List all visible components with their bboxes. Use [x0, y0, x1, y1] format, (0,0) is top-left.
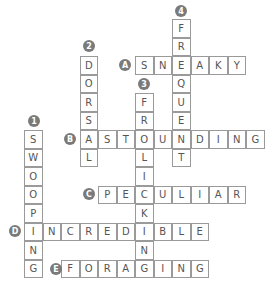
crossword-cell[interactable]: T — [172, 149, 191, 168]
crossword-cell[interactable]: R — [135, 112, 154, 131]
crossword-cell[interactable]: N — [24, 241, 43, 260]
crossword-cell[interactable]: G — [246, 130, 265, 149]
crossword-cell[interactable]: N — [154, 56, 173, 75]
crossword-cell[interactable]: C — [61, 223, 80, 242]
crossword-cell[interactable]: E — [98, 223, 117, 242]
clue-number-badge-down-4: 4 — [175, 5, 187, 17]
crossword-cell[interactable]: D — [117, 223, 136, 242]
crossword-cell[interactable]: G — [191, 260, 210, 279]
crossword-cell[interactable]: F — [61, 260, 80, 279]
crossword-cell[interactable]: L — [135, 149, 154, 168]
crossword-cell[interactable]: U — [154, 130, 173, 149]
crossword-cell[interactable]: O — [135, 130, 154, 149]
clue-number-badge-across-d: D — [9, 225, 21, 237]
crossword-cell[interactable]: P — [98, 186, 117, 205]
crossword-cell[interactable]: R — [172, 38, 191, 57]
crossword-cell[interactable]: F — [172, 19, 191, 38]
clue-number-badge-down-2: 2 — [83, 40, 95, 52]
crossword-cell[interactable]: K — [135, 204, 154, 223]
crossword-cell[interactable]: Y — [228, 56, 247, 75]
crossword-cell[interactable]: I — [209, 130, 228, 149]
crossword-cell[interactable]: P — [24, 204, 43, 223]
crossword-cell[interactable]: R — [228, 186, 247, 205]
crossword-cell[interactable]: N — [172, 260, 191, 279]
crossword-cell[interactable]: N — [43, 223, 62, 242]
clue-number-badge-down-3: 3 — [138, 78, 150, 90]
crossword-cell[interactable]: E — [191, 223, 210, 242]
crossword-cell[interactable]: Q — [172, 75, 191, 94]
crossword-cell[interactable]: I — [135, 167, 154, 186]
crossword-cell[interactable]: U — [154, 186, 173, 205]
crossword-cell[interactable]: G — [135, 260, 154, 279]
crossword-cell[interactable]: B — [154, 223, 173, 242]
crossword-cell[interactable]: A — [191, 56, 210, 75]
crossword-cell[interactable]: E — [172, 112, 191, 131]
crossword-cell[interactable]: I — [191, 186, 210, 205]
crossword-cell[interactable]: R — [80, 223, 99, 242]
crossword-cell[interactable]: O — [24, 167, 43, 186]
crossword-cell[interactable]: A — [209, 186, 228, 205]
crossword-cell[interactable]: N — [172, 130, 191, 149]
crossword-cell[interactable]: D — [191, 130, 210, 149]
crossword-cell[interactable]: S — [135, 56, 154, 75]
crossword-cell[interactable]: L — [80, 149, 99, 168]
crossword-cell[interactable]: R — [98, 260, 117, 279]
crossword-cell[interactable]: D — [80, 56, 99, 75]
crossword-cell[interactable]: A — [80, 130, 99, 149]
crossword-cell[interactable]: S — [98, 130, 117, 149]
crossword-cell[interactable]: I — [24, 223, 43, 242]
clue-number-badge-across-b: B — [64, 133, 76, 145]
crossword-cell[interactable]: N — [135, 241, 154, 260]
clue-number-badge-down-1: 1 — [28, 115, 40, 127]
crossword-cell[interactable]: S — [80, 112, 99, 131]
crossword-cell[interactable]: W — [24, 149, 43, 168]
crossword-cell[interactable]: O — [24, 186, 43, 205]
crossword-cell[interactable]: T — [117, 130, 136, 149]
crossword-cell[interactable]: R — [80, 93, 99, 112]
clue-number-badge-across-a: A — [119, 59, 131, 71]
crossword-cell[interactable]: O — [80, 75, 99, 94]
crossword-cell[interactable]: K — [209, 56, 228, 75]
crossword-cell[interactable]: G — [24, 260, 43, 279]
crossword-cell[interactable]: E — [117, 186, 136, 205]
crossword-cell[interactable]: O — [80, 260, 99, 279]
crossword-cell[interactable]: F — [135, 93, 154, 112]
crossword-board: SWOOPINGDORSALFROLICKINGFREQUENTSNAKYSTU… — [0, 0, 267, 283]
crossword-cell[interactable]: U — [172, 93, 191, 112]
crossword-cell[interactable]: C — [135, 186, 154, 205]
crossword-cell[interactable]: N — [228, 130, 247, 149]
crossword-cell[interactable]: E — [172, 56, 191, 75]
clue-number-badge-across-c: C — [83, 188, 95, 200]
crossword-cell[interactable]: L — [172, 186, 191, 205]
crossword-cell[interactable]: A — [117, 260, 136, 279]
crossword-cell[interactable]: L — [172, 223, 191, 242]
crossword-cell[interactable]: I — [154, 260, 173, 279]
crossword-cell[interactable]: I — [135, 223, 154, 242]
crossword-cell[interactable]: S — [24, 130, 43, 149]
clue-number-badge-across-e: E — [50, 263, 62, 275]
